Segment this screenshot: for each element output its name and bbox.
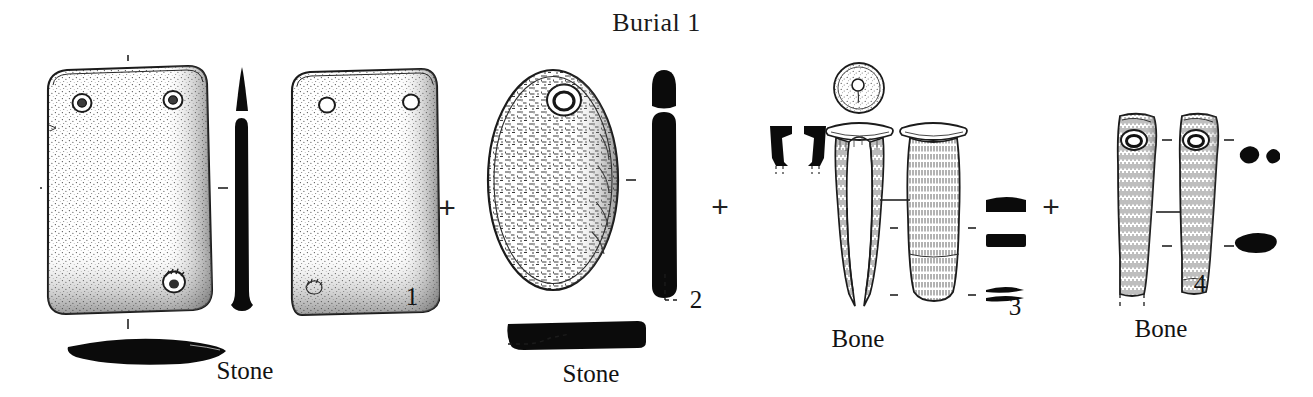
artifact-1-reverse-perforation-left	[319, 97, 335, 112]
artifact-group-4	[1080, 108, 1280, 308]
artifact-1-front-view	[40, 55, 228, 329]
artifact-4-face-view	[1118, 114, 1157, 308]
artifact-4-cross-sections	[1235, 146, 1280, 253]
artifact-4-drawing	[1080, 108, 1280, 308]
artifact-1-drawing	[40, 55, 440, 365]
artifact-plate: Burial 1	[0, 0, 1313, 397]
artifact-number-2: 2	[690, 286, 703, 314]
artifact-3-rim-profiles	[770, 126, 826, 174]
page-title: Burial 1	[0, 8, 1313, 38]
artifact-group-3	[762, 58, 1032, 328]
material-label-3: Bone	[832, 325, 885, 353]
artifact-1-perforation-top-right	[164, 91, 183, 109]
artifact-number-4: 4	[1194, 270, 1207, 298]
artifact-2-side-profile	[652, 70, 677, 300]
artifact-2-perforation	[547, 84, 581, 116]
material-label-2: Stone	[563, 360, 620, 388]
artifact-1-reverse-view	[292, 69, 440, 315]
artifact-3-cross-sections	[986, 197, 1026, 302]
artifact-group-2	[480, 62, 700, 362]
separator-plus-1: +	[438, 193, 456, 223]
artifact-3-side-view	[880, 123, 976, 301]
artifact-4-reverse-view	[1156, 114, 1234, 294]
artifact-2-basal-section	[507, 321, 646, 350]
artifact-3-drawing	[762, 58, 1032, 328]
artifact-3-top-view	[834, 63, 884, 113]
artifact-1-basal-section	[68, 339, 226, 365]
artifact-1-reverse-perforation-right	[403, 94, 419, 109]
material-label-4: Bone	[1135, 315, 1188, 343]
artifact-1-side-profile	[231, 67, 253, 311]
artifact-4-face-perforation	[1121, 130, 1147, 150]
artifact-1-perforation-top-left	[73, 94, 92, 112]
artifact-2-front-view	[480, 70, 636, 290]
artifact-2-drawing	[480, 62, 700, 362]
artifact-3-split-view	[826, 123, 893, 306]
artifact-group-1	[40, 55, 440, 365]
material-label-1: Stone	[217, 357, 274, 385]
artifact-4-reverse-perforation	[1183, 130, 1209, 150]
artifact-number-1: 1	[406, 283, 419, 311]
artifact-number-3: 3	[1009, 293, 1022, 321]
separator-plus-3: +	[1042, 192, 1060, 222]
separator-plus-2: +	[711, 192, 729, 222]
